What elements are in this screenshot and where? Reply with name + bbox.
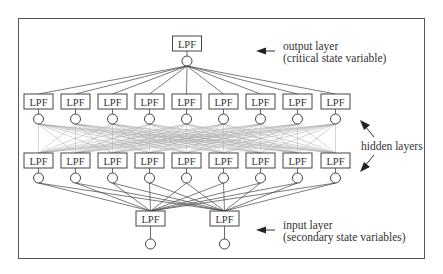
connection-line — [76, 66, 188, 94]
hidden-layers-label: hidden layers — [361, 140, 423, 152]
hidden1-node: LPF — [61, 94, 90, 124]
hidden2-node: LPF — [135, 153, 164, 183]
neuron-circle-icon — [71, 173, 81, 183]
neuron-circle-icon — [219, 114, 229, 124]
neuron-circle-icon — [293, 114, 303, 124]
lpf-label: LPF — [288, 97, 306, 108]
lpf-label: LPF — [141, 214, 159, 225]
hidden-arrow-down-head-icon — [360, 162, 370, 172]
neuron-circle-icon — [146, 239, 156, 249]
lpf-label: LPF — [103, 156, 121, 167]
output-node: LPF — [173, 36, 202, 66]
hidden1-node: LPF — [321, 94, 350, 124]
lpf-label: LPF — [326, 97, 344, 108]
neuron-circle-icon — [331, 114, 341, 124]
hidden1-node: LPF — [209, 94, 238, 124]
neuron-circle-icon — [108, 173, 118, 183]
connection-line — [150, 183, 151, 211]
lpf-label: LPF — [66, 156, 84, 167]
hidden2-node: LPF — [61, 153, 90, 183]
lpf-label: LPF — [103, 97, 121, 108]
input-layer-sublabel: (secondary state variables) — [283, 231, 406, 243]
lpf-label: LPF — [140, 97, 158, 108]
input-node: LPF — [136, 211, 165, 249]
neuron-circle-icon — [182, 56, 192, 66]
hidden1-node: LPF — [135, 94, 164, 124]
neuron-circle-icon — [220, 239, 230, 249]
hidden1-node: LPF — [172, 94, 201, 124]
neuron-circle-icon — [34, 114, 44, 124]
neuron-circle-icon — [182, 114, 192, 124]
lpf-label: LPF — [178, 39, 196, 50]
lpf-label: LPF — [29, 156, 47, 167]
neuron-circle-icon — [219, 173, 229, 183]
connection-line — [151, 183, 187, 211]
neuron-circle-icon — [145, 114, 155, 124]
neuron-circle-icon — [145, 173, 155, 183]
neuron-circle-icon — [331, 173, 341, 183]
lpf-label: LPF — [177, 97, 195, 108]
hidden1-node: LPF — [283, 94, 312, 124]
lpf-label: LPF — [215, 214, 233, 225]
hidden-arrow-up-head-icon — [360, 120, 370, 130]
neuron-circle-icon — [182, 173, 192, 183]
output-arrow-head-icon — [256, 48, 266, 55]
lpf-label: LPF — [251, 156, 269, 167]
neuron-circle-icon — [293, 173, 303, 183]
hidden2-node: LPF — [283, 153, 312, 183]
connection-line — [113, 183, 151, 211]
arrows — [256, 48, 374, 234]
neuron-circle-icon — [256, 114, 266, 124]
connection-line — [187, 66, 336, 94]
lpf-label: LPF — [326, 156, 344, 167]
neuron-circle-icon — [71, 114, 81, 124]
neuron-circle-icon — [108, 114, 118, 124]
hidden2-node: LPF — [98, 153, 127, 183]
connection-line — [150, 66, 188, 94]
input-layer-label: input layer — [283, 219, 333, 231]
lpf-label: LPF — [29, 97, 47, 108]
input-arrow-head-icon — [256, 227, 266, 234]
connection-line — [187, 66, 261, 94]
lpf-label: LPF — [288, 156, 306, 167]
input-node: LPF — [210, 211, 239, 249]
connection-line — [39, 66, 188, 94]
connection-line — [187, 66, 188, 94]
lpf-label: LPF — [177, 156, 195, 167]
hidden2-node: LPF — [209, 153, 238, 183]
neuron-circle-icon — [34, 173, 44, 183]
lpf-label: LPF — [251, 97, 269, 108]
output-layer-label: output layer — [283, 40, 338, 52]
output-layer-sublabel: (critical state variable) — [283, 52, 386, 64]
hidden-layer-connections — [39, 124, 336, 153]
hidden2-node: LPF — [172, 153, 201, 183]
connection-line — [113, 66, 188, 94]
lpf-label: LPF — [66, 97, 84, 108]
lpf-label: LPF — [214, 97, 232, 108]
connection-line — [187, 66, 224, 94]
neuron-circle-icon — [256, 173, 266, 183]
connection-line — [76, 183, 151, 211]
connection-line — [187, 66, 298, 94]
lpf-label: LPF — [214, 156, 232, 167]
hidden1-node: LPF — [246, 94, 275, 124]
hidden1-node: LPF — [98, 94, 127, 124]
lpf-label: LPF — [140, 156, 158, 167]
hidden2-node: LPF — [321, 153, 350, 183]
hidden1-node: LPF — [24, 94, 53, 124]
hidden2-node: LPF — [246, 153, 275, 183]
hidden2-node: LPF — [24, 153, 53, 183]
connection-line — [225, 183, 298, 211]
